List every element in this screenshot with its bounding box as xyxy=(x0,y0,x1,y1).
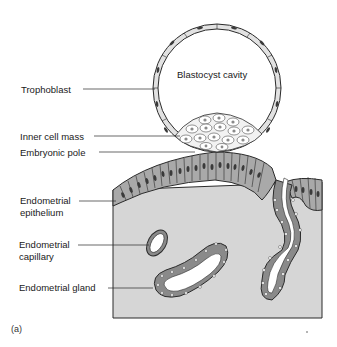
blastocyst-implantation-diagram xyxy=(0,0,337,347)
label-embryonic-pole: Embryonic pole xyxy=(20,147,85,158)
label-capillary-line1: Endometrial xyxy=(19,239,70,251)
label-epithelium-line2: epithelium xyxy=(20,207,71,219)
blastocyst-cavity-label: Blastocyst cavity xyxy=(177,69,247,80)
label-endometrial-gland: Endometrial gland xyxy=(19,282,96,293)
stray-dot xyxy=(306,331,308,333)
label-trophoblast: Trophoblast xyxy=(21,84,71,95)
label-inner-cell-mass: Inner cell mass xyxy=(20,131,84,142)
label-endometrial-capillary: Endometrial capillary xyxy=(19,239,70,263)
label-epithelium-line1: Endometrial xyxy=(20,195,71,207)
label-endometrial-epithelium: Endometrial epithelium xyxy=(20,195,71,219)
panel-label: (a) xyxy=(11,324,22,334)
label-capillary-line2: capillary xyxy=(19,251,70,263)
